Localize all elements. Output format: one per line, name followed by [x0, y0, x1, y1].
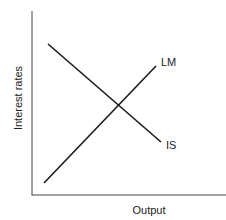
is-lm-chart: LM IS Output Interest rates	[0, 0, 226, 220]
lm-curve	[44, 66, 156, 183]
y-axis-title: Interest rates	[12, 65, 24, 130]
is-curve	[48, 44, 161, 142]
x-axis-title: Output	[132, 204, 165, 216]
is-curve-label: IS	[166, 139, 176, 151]
lm-curve-label: LM	[161, 56, 176, 68]
